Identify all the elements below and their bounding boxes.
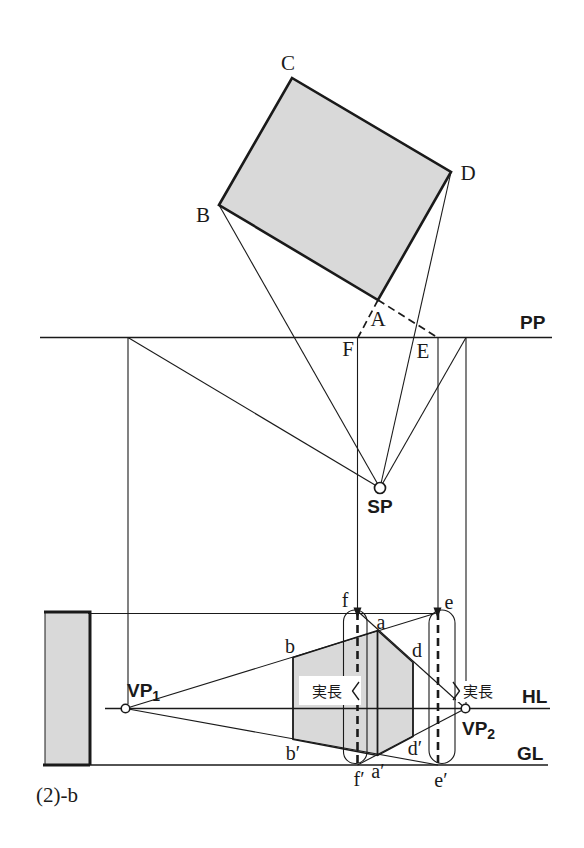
elevation-rect-fill — [45, 612, 90, 765]
label-pp: PP — [520, 312, 546, 333]
label-f-upper: F — [342, 337, 354, 361]
label-b-prime: b′ — [286, 742, 300, 764]
label-f-lower: f — [342, 589, 349, 611]
label-c: C — [281, 51, 295, 75]
sp-circle — [375, 483, 386, 494]
diagram-canvas: C B D A F E PP SP f e a b d b′ d′ f′ a′ … — [0, 0, 584, 848]
label-true-length-left: 実長 — [312, 683, 342, 700]
label-a: A — [370, 307, 386, 331]
label-hl: HL — [522, 686, 548, 707]
label-a-lower: a — [377, 611, 386, 633]
label-d: D — [460, 161, 475, 185]
figure-caption: (2)-b — [36, 783, 78, 807]
label-f-prime: f′ — [353, 768, 364, 790]
vp2-circle — [461, 704, 470, 713]
label-a-prime: a′ — [371, 760, 384, 782]
vp1-circle — [121, 704, 130, 713]
label-b-lower: b — [285, 635, 295, 657]
label-sp: SP — [367, 496, 393, 517]
label-b: B — [196, 203, 210, 227]
label-gl: GL — [517, 743, 544, 764]
elevation-rectangle — [43, 612, 90, 765]
diagram-page: C B D A F E PP SP f e a b d b′ d′ f′ a′ … — [0, 0, 584, 848]
label-e-lower: e — [445, 591, 454, 613]
label-e-upper: E — [417, 339, 430, 363]
label-d-prime: d′ — [408, 737, 422, 759]
label-true-length-right: 実長 — [463, 683, 493, 700]
label-e-prime: e′ — [434, 769, 447, 791]
label-d-lower: d — [412, 639, 422, 661]
